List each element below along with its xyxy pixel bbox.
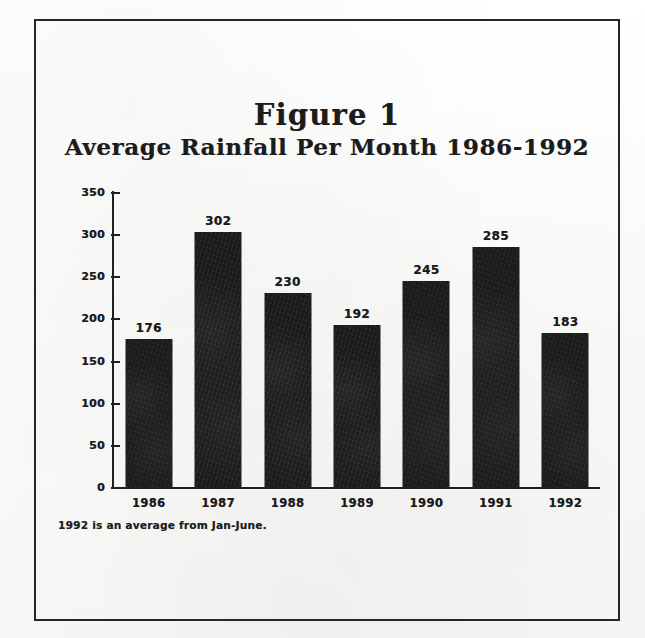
bar-value-label: 176 (136, 321, 162, 335)
y-axis-tick-label: 300 (81, 228, 105, 241)
bar-group: 2451990 (392, 192, 461, 487)
bar (542, 333, 589, 487)
figure-scan-page: Figure 1 Average Rainfall Per Month 1986… (0, 0, 645, 638)
bar (333, 325, 380, 487)
bar-value-label: 285 (483, 229, 509, 243)
bar-group: 2301988 (253, 192, 322, 487)
y-axis-tick-label: 250 (81, 270, 105, 283)
x-axis-tick-label: 1990 (410, 496, 444, 510)
chart-footnote: 1992 is an average from Jan-June. (58, 519, 267, 531)
figure-number-title: Figure 1 (34, 100, 620, 130)
bar-group: 1761986 (114, 192, 183, 487)
bar-group: 1921989 (322, 192, 391, 487)
bar (125, 339, 172, 487)
y-axis-tick-label: 350 (81, 186, 105, 199)
bar (264, 293, 311, 487)
y-axis-tick-label: 0 (97, 481, 105, 494)
chart-title-block: Figure 1 Average Rainfall Per Month 1986… (34, 100, 620, 162)
bar-value-label: 245 (413, 263, 439, 277)
chart-subtitle: Average Rainfall Per Month 1986-1992 (34, 133, 620, 162)
x-axis-tick-label: 1986 (132, 496, 166, 510)
y-axis-tick-mark (111, 487, 120, 489)
bar (195, 232, 242, 487)
bar-group: 2851991 (461, 192, 530, 487)
bar-group: 1831992 (531, 192, 600, 487)
bar (472, 247, 519, 487)
x-axis-tick-label: 1989 (340, 496, 374, 510)
x-axis-tick-label: 1988 (271, 496, 305, 510)
x-axis-tick-label: 1987 (201, 496, 235, 510)
x-axis-tick-label: 1991 (479, 496, 513, 510)
x-axis-line (112, 487, 600, 489)
y-axis-tick-label: 200 (81, 312, 105, 325)
bar (403, 281, 450, 488)
bar-series: 1761986302198723019881921989245199028519… (114, 192, 600, 487)
plot-area: 050100150200250300350 176198630219872301… (112, 192, 600, 487)
y-axis-tick-label: 50 (89, 438, 105, 451)
bar-value-label: 230 (274, 275, 300, 289)
bar-value-label: 183 (552, 315, 578, 329)
y-axis-tick-label: 150 (81, 354, 105, 367)
bar-value-label: 302 (205, 214, 231, 228)
bar-group: 3021987 (183, 192, 252, 487)
x-axis-tick-label: 1992 (548, 496, 582, 510)
y-axis-tick-label: 100 (81, 396, 105, 409)
bar-value-label: 192 (344, 307, 370, 321)
